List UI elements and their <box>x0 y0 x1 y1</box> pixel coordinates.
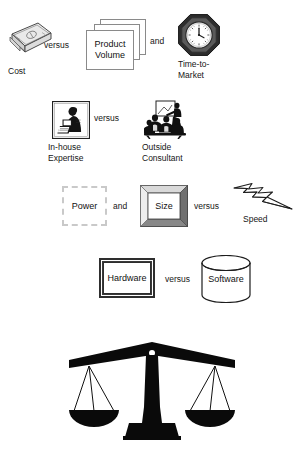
size-label: Size <box>140 185 188 227</box>
connector-versus-3: versus <box>194 201 219 211</box>
cost-label: Cost <box>8 66 25 77</box>
time-to-market-label: Time-to- Market <box>178 59 209 80</box>
connector-versus-1: versus <box>44 40 69 50</box>
product-volume-label: Product Volume <box>86 30 134 70</box>
beveled-frame-icon: Size <box>140 185 188 227</box>
software-label: Software <box>201 255 251 303</box>
balance-scale-icon <box>67 337 237 447</box>
connector-and-1: and <box>150 36 164 46</box>
outside-consultant-label: Outside Consultant <box>142 142 183 163</box>
connector-versus-4: versus <box>165 274 190 284</box>
speed-label: Speed <box>243 214 268 225</box>
money-icon <box>8 20 54 58</box>
cylinder-icon: Software <box>201 255 251 303</box>
in-house-expertise-label: In-house Expertise <box>48 142 83 163</box>
clock-icon <box>178 14 220 56</box>
group-presentation-icon <box>144 100 190 140</box>
stacked-pages-icon: Product Volume <box>86 19 148 73</box>
lightning-bolt-icon <box>232 182 294 212</box>
hardware-label: Hardware <box>107 273 146 284</box>
power-box: Power <box>62 186 107 226</box>
power-label: Power <box>72 201 98 212</box>
person-at-computer-icon <box>52 101 90 139</box>
connector-and-2: and <box>113 201 127 211</box>
hardware-box: Hardware <box>99 258 155 298</box>
connector-versus-2: versus <box>94 113 119 123</box>
diagram-canvas: Cost versus Product Volume and <box>0 0 304 458</box>
